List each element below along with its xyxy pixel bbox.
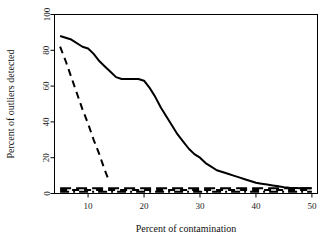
y-tick-label: 80 bbox=[42, 45, 52, 55]
y-tick-label: 100 bbox=[42, 7, 52, 21]
y-tick-label: 40 bbox=[42, 117, 52, 127]
outlier-detection-line-chart: 1020304050 020406080100 Percent of conta… bbox=[0, 0, 332, 239]
chart-figure: 1020304050 020406080100 Percent of conta… bbox=[0, 0, 332, 239]
y-tick-label: 60 bbox=[42, 81, 52, 91]
x-tick-label: 40 bbox=[251, 201, 261, 211]
x-tick-label: 10 bbox=[84, 201, 94, 211]
y-axis-label: Percent of outliers detected bbox=[5, 49, 16, 158]
x-tick-label: 30 bbox=[195, 201, 205, 211]
x-axis-label: Percent of contamination bbox=[136, 223, 237, 234]
x-tick-label: 50 bbox=[307, 201, 317, 211]
y-tick-label: 0 bbox=[42, 191, 52, 196]
x-tick-label: 20 bbox=[140, 201, 150, 211]
y-tick-label: 20 bbox=[42, 153, 52, 163]
